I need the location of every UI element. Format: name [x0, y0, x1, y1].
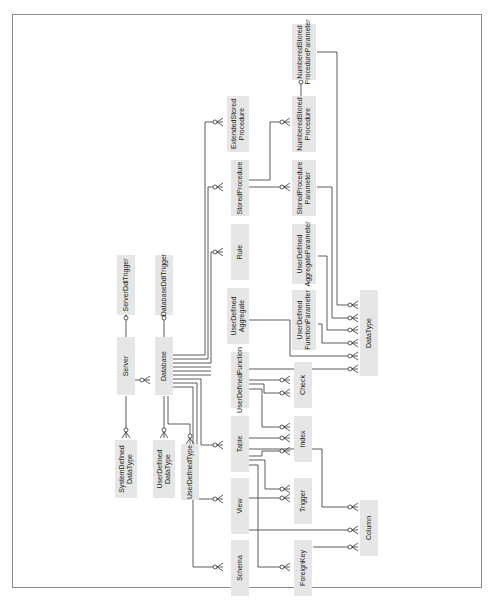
- entity-numbered-stored-procedure: NumberedStored Procedure: [292, 96, 316, 152]
- entity-data-type: DataType: [360, 290, 378, 376]
- entity-user-defined-function-parameter: UserDefined FunctionParameter: [292, 290, 316, 350]
- entity-database: Database: [155, 337, 173, 395]
- entity-schema: Schema: [231, 540, 249, 596]
- entity-user-defined-function: UserDefinedFunction: [231, 352, 249, 408]
- entity-index: Index: [294, 416, 312, 462]
- entity-table: Table: [231, 416, 249, 472]
- entity-numbered-stored-procedure-parameter: NumberedStored ProcedureParameter: [292, 24, 316, 80]
- entity-column: Column: [360, 500, 378, 556]
- entity-server-ddl-trigger: ServerDdlTrigger: [117, 255, 135, 315]
- entity-rule: Rule: [231, 224, 249, 280]
- entity-stored-procedure-parameter: StoredProcedure Parameter: [292, 160, 316, 216]
- entity-check: Check: [294, 362, 312, 408]
- entity-extended-stored-procedure: ExtendedStored Procedure: [227, 96, 249, 152]
- entity-user-defined-data-type: UserDefined DataType: [153, 440, 175, 498]
- entity-server: Server: [117, 337, 135, 395]
- entity-user-defined-aggregate-parameter: UserDefined AggregateParameter: [292, 224, 316, 284]
- entity-trigger: Trigger: [294, 478, 312, 524]
- entity-user-defined-aggregate: UserDefined Aggregate: [227, 288, 249, 344]
- entity-view: View: [231, 478, 249, 534]
- entity-user-defined-type: UserDefinedType: [181, 444, 199, 500]
- entity-system-defined-data-type: SystemDefined DataType: [115, 440, 137, 498]
- entity-stored-procedure: StoredProcedure: [231, 160, 249, 216]
- entity-database-ddl-trigger: DatabaseDdlTrigger: [155, 255, 173, 315]
- entity-foreign-key: ForeignKey: [294, 540, 312, 596]
